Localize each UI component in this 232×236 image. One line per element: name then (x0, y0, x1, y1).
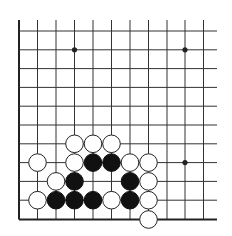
white-stone (140, 191, 158, 209)
white-stone (47, 173, 65, 191)
white-stone (121, 154, 139, 172)
black-stone (47, 191, 65, 209)
white-stone (29, 191, 47, 209)
white-stone (140, 173, 158, 191)
white-stone (84, 135, 102, 153)
white-stone (103, 135, 121, 153)
star-point-icon (182, 47, 187, 52)
black-stone (84, 191, 102, 209)
black-stone (66, 173, 84, 191)
white-stone (29, 154, 47, 172)
white-stone (140, 154, 158, 172)
white-stone (66, 135, 84, 153)
black-stone (121, 173, 139, 191)
white-stone (140, 211, 158, 229)
black-stone (84, 154, 102, 172)
black-stone (66, 191, 84, 209)
white-stone (103, 191, 121, 209)
go-board-diagram (0, 0, 232, 236)
black-stone (103, 154, 121, 172)
go-board (0, 0, 232, 236)
white-stone (66, 154, 84, 172)
star-point-icon (72, 47, 77, 52)
star-point-icon (182, 160, 187, 165)
black-stone (121, 191, 139, 209)
